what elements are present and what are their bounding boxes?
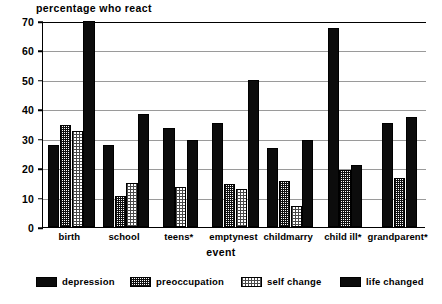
bar-teens--depression (163, 128, 174, 227)
legend-label: life changed (366, 276, 424, 287)
bar-childmarry-life-changed (302, 140, 313, 227)
y-axis-tick-label: 60 (8, 45, 34, 57)
legend-swatch-life-changed (340, 277, 361, 287)
bar-school-preoccupation (115, 196, 126, 227)
bar-school-depression (103, 145, 114, 227)
bar-childmarry-depression (267, 148, 278, 227)
bar-emptynest-life-changed (248, 80, 259, 227)
legend-swatch-depression (36, 277, 57, 287)
legend-label: depression (62, 276, 115, 287)
y-axis-tick-label: 40 (8, 104, 34, 116)
bar-school-life-changed (138, 114, 149, 227)
plot-area (42, 22, 425, 228)
bar-childmarry-preoccupation (279, 181, 290, 227)
legend-label: preoccupation (156, 276, 224, 287)
bar-chart: percentage who react 010203040506070 bir… (0, 0, 442, 304)
bar-birth-depression (48, 145, 59, 227)
bar-grandparent--life-changed (406, 117, 417, 227)
y-axis-tick-label: 30 (8, 134, 34, 146)
chart-title: percentage who react (36, 2, 152, 14)
bar-group-childmarry (267, 22, 314, 227)
legend-item-life-changed[interactable]: life changed (340, 276, 424, 287)
bar-childmarry-self-change (291, 206, 302, 227)
x-axis-tick-label-child-ill-: child ill* (324, 231, 361, 242)
y-axis-tick-label: 20 (8, 163, 34, 175)
bar-emptynest-self-change (236, 189, 247, 227)
x-axis-tick-label-childmarry: childmarry (263, 231, 313, 242)
bar-grandparent--preoccupation (394, 178, 405, 227)
bar-teens--self-change (175, 187, 186, 227)
legend-label: self change (267, 276, 321, 287)
bar-teens--life-changed (187, 140, 198, 227)
legend-swatch-self-change (241, 277, 262, 287)
y-axis-tick-label: 50 (8, 75, 34, 87)
bar-group-teens- (163, 22, 198, 227)
x-axis-tick-label-birth: birth (59, 231, 81, 242)
bar-school-self-change (126, 183, 137, 227)
legend-swatch-preoccupation (130, 277, 151, 287)
bar-child-ill--preoccupation (339, 170, 350, 227)
bar-group-emptynest (212, 22, 259, 227)
y-axis-tick-label: 70 (8, 16, 34, 28)
legend-item-self-change[interactable]: self change (241, 276, 321, 287)
bar-group-child-ill- (328, 22, 363, 227)
legend-item-preoccupation[interactable]: preoccupation (130, 276, 224, 287)
bar-grandparent--depression (382, 123, 393, 227)
y-axis-tick-label: 0 (8, 222, 34, 234)
bar-birth-preoccupation (60, 125, 71, 227)
bar-birth-life-changed (83, 21, 94, 227)
bar-child-ill--depression (328, 28, 339, 227)
bar-emptynest-preoccupation (224, 184, 235, 227)
bar-group-school (103, 22, 150, 227)
bar-birth-self-change (72, 131, 83, 227)
bar-group-grandparent- (382, 22, 417, 227)
bar-group-birth (48, 22, 95, 227)
x-axis-tick-label-teens-: teens* (164, 231, 193, 242)
legend-item-depression[interactable]: depression (36, 276, 115, 287)
chart-legend: depressionpreoccupationself changelife c… (0, 276, 442, 292)
x-axis-tick-label-emptynest: emptynest (209, 231, 257, 242)
x-axis-title: event (0, 246, 442, 258)
x-axis-tick-label-grandparent-: grandparent* (367, 231, 427, 242)
y-axis-tick-label: 10 (8, 193, 34, 205)
bar-child-ill--life-changed (351, 165, 362, 227)
x-axis-tick-label-school: school (108, 231, 139, 242)
bar-emptynest-depression (212, 123, 223, 227)
